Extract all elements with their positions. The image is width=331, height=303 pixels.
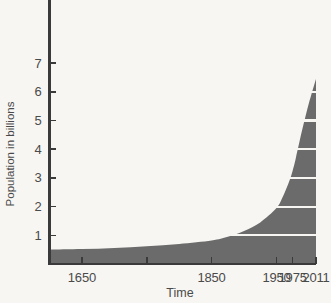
y-tick-label-5: 5 bbox=[34, 113, 41, 128]
x-tick-label-1850: 1850 bbox=[198, 270, 226, 285]
y-tick-label-4: 4 bbox=[34, 142, 41, 157]
chart-canvas: 1234567 16501850195019752011 Population … bbox=[0, 0, 331, 303]
y-axis-title: Population in billions bbox=[4, 101, 16, 206]
y-tick-label-7: 7 bbox=[34, 56, 41, 71]
y-tick-label-2: 2 bbox=[34, 199, 41, 214]
x-tick-label-group: 16501850195019752011 bbox=[68, 270, 330, 285]
x-tick-label-2011: 2011 bbox=[302, 270, 329, 285]
population-growth-chart: 1234567 16501850195019752011 Population … bbox=[0, 0, 331, 303]
y-tick-label-6: 6 bbox=[34, 84, 41, 99]
x-axis-title: Time bbox=[166, 286, 193, 300]
y-tick-label-3: 3 bbox=[34, 170, 41, 185]
y-tick-label-1: 1 bbox=[34, 228, 41, 243]
x-tick-label-1650: 1650 bbox=[68, 270, 96, 285]
plot-area bbox=[50, 79, 317, 264]
y-tick-label-group: 1234567 bbox=[34, 56, 41, 243]
